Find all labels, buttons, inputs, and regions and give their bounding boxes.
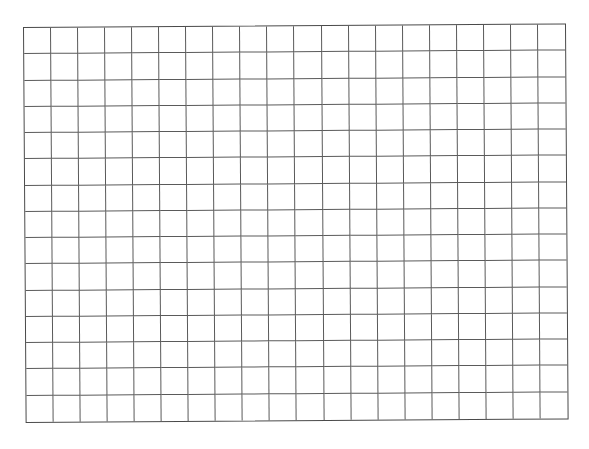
- grid-cell: [405, 314, 432, 340]
- grid-cell: [512, 235, 539, 261]
- grid-cell: [378, 314, 405, 340]
- grid-cell: [80, 369, 107, 395]
- grid-cell: [376, 104, 403, 130]
- grid-cell: [351, 367, 378, 393]
- grid-cell: [134, 237, 161, 263]
- grid-cell: [242, 289, 269, 315]
- grid-cell: [214, 132, 241, 158]
- grid-cell: [133, 106, 160, 132]
- grid-cell: [160, 79, 187, 105]
- grid-cell: [540, 287, 567, 313]
- grid-cell: [53, 290, 80, 316]
- grid-cell: [106, 185, 133, 211]
- grid-cell: [404, 157, 431, 183]
- grid-cell: [79, 106, 106, 132]
- grid-cell: [186, 27, 213, 53]
- grid-cell: [296, 184, 323, 210]
- grid-cell: [297, 341, 324, 367]
- grid-cell: [378, 367, 405, 393]
- grid-cell: [80, 343, 107, 369]
- grid-cell: [188, 289, 215, 315]
- grid-cell: [268, 52, 295, 78]
- grid-cell: [458, 183, 485, 209]
- grid-cell: [431, 209, 458, 235]
- grid-cell: [511, 51, 538, 77]
- grid-cell: [294, 26, 321, 52]
- grid-cell: [188, 316, 215, 342]
- grid-cell: [323, 315, 350, 341]
- grid-cell: [107, 342, 134, 368]
- grid-cell: [458, 156, 485, 182]
- grid-cell: [349, 131, 376, 157]
- grid-cell: [458, 209, 485, 235]
- grid-cell: [52, 211, 79, 237]
- grid-cell: [79, 238, 106, 264]
- grid-cell: [26, 317, 53, 343]
- grid-cell: [189, 394, 216, 420]
- grid-cell: [459, 314, 486, 340]
- grid-cell: [296, 236, 323, 262]
- grid-cell: [270, 368, 297, 394]
- grid-cell: [25, 107, 52, 133]
- grid-cell: [134, 263, 161, 289]
- grid-cell: [105, 54, 132, 80]
- grid-cell: [349, 26, 376, 52]
- grid-cell: [242, 210, 269, 236]
- grid-cell: [430, 25, 457, 51]
- grid-cell: [242, 315, 269, 341]
- grid-cell: [457, 104, 484, 130]
- grid-cell: [430, 130, 457, 156]
- grid-cell: [404, 209, 431, 235]
- grid-cell: [24, 54, 51, 80]
- grid-cell: [403, 25, 430, 51]
- grid-cell: [78, 54, 105, 80]
- grid-cell: [25, 133, 52, 159]
- grid-cell: [324, 394, 351, 420]
- grid-cell: [52, 185, 79, 211]
- grid-cell: [351, 315, 378, 341]
- grid-cell: [430, 78, 457, 104]
- grid-cell: [351, 341, 378, 367]
- grid-cell: [322, 131, 349, 157]
- grid-cell: [540, 313, 567, 339]
- grid-cell: [349, 78, 376, 104]
- grid-cell: [349, 104, 376, 130]
- grid-cell: [430, 51, 457, 77]
- grid-cell: [52, 106, 79, 132]
- grid-cell: [269, 289, 296, 315]
- grid-cell: [513, 366, 540, 392]
- grid-cell: [133, 185, 160, 211]
- grid-cell: [133, 158, 160, 184]
- grid-cell: [106, 159, 133, 185]
- grid-cell: [269, 263, 296, 289]
- grid-cell: [349, 157, 376, 183]
- grid-paper: [23, 23, 569, 423]
- grid-cell: [216, 394, 243, 420]
- grid-cell: [189, 368, 216, 394]
- grid-cell: [323, 210, 350, 236]
- grid-cell: [243, 394, 270, 420]
- grid-cell: [135, 395, 162, 421]
- grid-cell: [513, 340, 540, 366]
- grid-cell: [378, 341, 405, 367]
- grid-cell: [350, 288, 377, 314]
- grid-cell: [322, 105, 349, 131]
- grid-cell: [296, 210, 323, 236]
- grid-cell: [241, 53, 268, 79]
- grid-cell: [459, 393, 486, 419]
- grid-cell: [431, 183, 458, 209]
- grid-cell: [430, 104, 457, 130]
- grid-cell: [323, 236, 350, 262]
- grid-cell: [53, 369, 80, 395]
- grid-cell: [404, 288, 431, 314]
- grid-cell: [241, 131, 268, 157]
- grid-cell: [376, 78, 403, 104]
- grid-cell: [268, 184, 295, 210]
- grid-cell: [187, 79, 214, 105]
- grid-cell: [268, 158, 295, 184]
- grid-cell: [295, 157, 322, 183]
- grid-cell: [106, 211, 133, 237]
- grid-cell: [215, 263, 242, 289]
- grid-cell: [107, 264, 134, 290]
- grid-cell: [26, 396, 53, 422]
